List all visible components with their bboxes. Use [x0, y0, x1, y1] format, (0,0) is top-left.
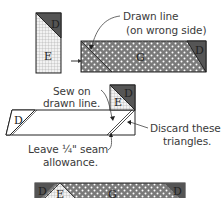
- callout-discard-2: triangles.: [163, 135, 211, 147]
- step3-strip: D E G D: [35, 183, 185, 198]
- arrow-icon: [71, 59, 82, 63]
- strip-g-with-d-corner: G D: [81, 41, 206, 72]
- svg-text:D: D: [195, 44, 204, 57]
- svg-text:E: E: [44, 50, 52, 63]
- callout-seam-2: allowance.: [43, 156, 98, 168]
- svg-text:D: D: [51, 18, 60, 31]
- callout-wrong-side: (on wrong side): [126, 24, 206, 36]
- svg-text:G: G: [136, 51, 145, 64]
- svg-text:E: E: [114, 96, 122, 109]
- callout-sew-2: drawn line.: [43, 97, 100, 109]
- callout-sew-1: Sew on: [53, 85, 91, 97]
- svg-text:G: G: [108, 188, 117, 198]
- callout-drawn-line: Drawn line: [123, 10, 178, 22]
- svg-text:D: D: [38, 185, 47, 198]
- svg-text:D: D: [173, 185, 182, 198]
- callout-discard-1: Discard these: [150, 122, 221, 134]
- svg-text:E: E: [56, 188, 64, 198]
- svg-text:D: D: [124, 87, 133, 100]
- callout-seam-1: Leave ¼" seam: [28, 143, 108, 155]
- svg-text:D: D: [14, 114, 23, 127]
- piece-e-d-rectangle: D E: [36, 13, 61, 73]
